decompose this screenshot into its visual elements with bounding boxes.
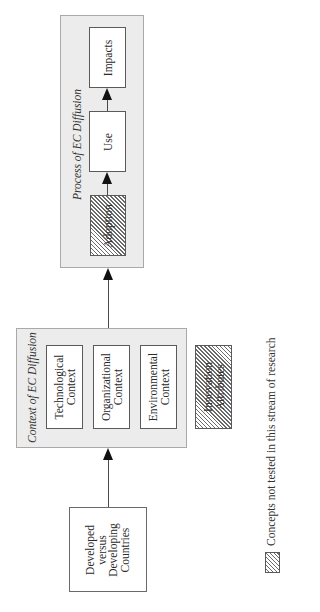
use-box: Use bbox=[89, 111, 126, 172]
impacts-box: Impacts bbox=[89, 27, 126, 88]
process-group-title: Process of EC Diffusion bbox=[71, 89, 83, 200]
context-group-title: Context of EC Diffusion bbox=[26, 332, 38, 443]
environmental-line2: Context bbox=[159, 353, 171, 421]
innovation-line2: Attributes bbox=[214, 362, 226, 412]
organizational-context-box: Organizational Context bbox=[93, 345, 130, 429]
countries-line1: Developed bbox=[85, 523, 97, 577]
adoption-box: Adoption bbox=[90, 195, 126, 256]
countries-line4: Countries bbox=[120, 523, 132, 577]
adoption-label: Adoption bbox=[102, 204, 114, 247]
organizational-line2: Context bbox=[112, 353, 124, 421]
technological-line2: Context bbox=[65, 355, 77, 420]
arrow-context-to-process bbox=[103, 268, 113, 280]
technological-context-box: Technological Context bbox=[46, 345, 83, 429]
arrow-use-to-impacts bbox=[102, 88, 112, 100]
use-label: Use bbox=[101, 133, 113, 151]
innovation-attributes-box: Innovation Attributes bbox=[195, 345, 232, 429]
countries-box: Developed versus Developing Countries bbox=[69, 507, 147, 592]
arrow-countries-to-context bbox=[103, 448, 113, 460]
organizational-line1: Organizational bbox=[99, 353, 111, 421]
technological-line1: Technological bbox=[52, 355, 64, 420]
legend-hatch-swatch bbox=[265, 552, 280, 573]
impacts-label: Impacts bbox=[101, 39, 113, 75]
arrow-adoption-to-use bbox=[102, 172, 112, 184]
countries-line3: Developing bbox=[108, 523, 120, 577]
innovation-line1: Innovation bbox=[201, 362, 213, 412]
legend-label: Concepts not tested in this stream of re… bbox=[265, 337, 277, 546]
environmental-line1: Environmental bbox=[146, 353, 158, 421]
environmental-context-box: Environmental Context bbox=[140, 345, 177, 429]
